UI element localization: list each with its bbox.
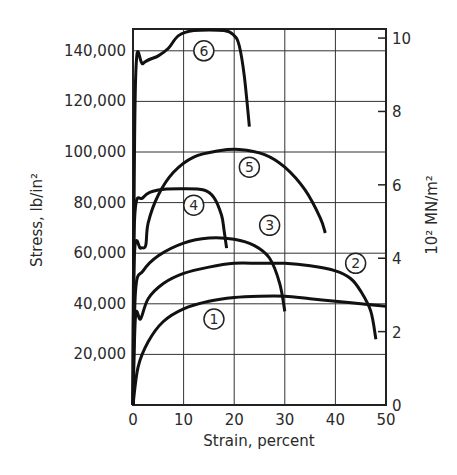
x-tick-label: 40 <box>326 411 345 429</box>
y-right-tick-label: 6 <box>392 177 402 195</box>
curve-label-4: 4 <box>189 197 198 213</box>
y-right-tick-label: 0 <box>392 397 402 415</box>
y-tick-label: 40,000 <box>74 295 127 313</box>
curve-labels: 123456 <box>184 41 366 329</box>
x-axis-ticks: 01020304050 <box>128 411 395 429</box>
x-tick-label: 0 <box>128 411 138 429</box>
curve-1 <box>133 296 386 405</box>
curve-label-5: 5 <box>245 159 254 175</box>
y-axis-left-title: Stress, lb/in² <box>28 173 46 267</box>
curve-4 <box>133 189 227 405</box>
y-tick-label: 120,000 <box>64 92 126 110</box>
y-axis-right-title: 10² MN/m² <box>423 175 441 255</box>
y-tick-label: 100,000 <box>64 143 126 161</box>
curve-5 <box>133 149 325 405</box>
curve-label-6: 6 <box>199 43 208 59</box>
plot-frame <box>133 29 386 405</box>
x-axis-title: Strain, percent <box>203 432 315 450</box>
y-right-tick-label: 4 <box>392 250 402 268</box>
y-right-tick-label: 8 <box>392 103 402 121</box>
curve-label-3: 3 <box>265 217 274 233</box>
y-axis-left-ticks: 20,00040,00060,00080,000100,000120,00014… <box>64 42 126 364</box>
y-tick-label: 60,000 <box>74 244 127 262</box>
x-tick-label: 20 <box>225 411 244 429</box>
y-right-tick-label: 2 <box>392 324 402 342</box>
grid-lines <box>133 29 386 405</box>
y-right-tick-label: 10 <box>392 30 411 48</box>
y-tick-label: 20,000 <box>74 345 127 363</box>
curves <box>133 30 386 405</box>
curve-2 <box>133 263 376 405</box>
curve-label-2: 2 <box>351 255 360 271</box>
y-tick-label: 140,000 <box>64 42 126 60</box>
x-tick-label: 30 <box>275 411 294 429</box>
y-axis-right-ticks: 0246810 <box>378 30 411 415</box>
x-tick-label: 10 <box>174 411 193 429</box>
stress-strain-chart: 123456 01020304050 20,00040,00060,00080,… <box>0 0 457 475</box>
y-tick-label: 80,000 <box>74 194 127 212</box>
curve-label-1: 1 <box>209 311 218 327</box>
